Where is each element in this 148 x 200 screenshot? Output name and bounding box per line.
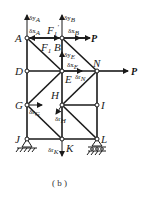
label-e: E [64, 73, 72, 85]
label-dyB: δyB [64, 14, 76, 24]
label-dxA: δxA [29, 27, 41, 37]
label-g: G [15, 99, 23, 111]
label-drK: δrK [48, 146, 59, 156]
joint-e [60, 69, 64, 73]
joint-a [25, 36, 29, 40]
joint-g [25, 103, 29, 107]
label-j: J [15, 133, 21, 145]
label-f1-prime: F1′ [46, 23, 59, 38]
label-p-right: P [131, 66, 138, 77]
label-k: K [65, 142, 74, 154]
label-dyA: δyA [29, 14, 41, 24]
figure-caption: ( b ) [52, 178, 67, 188]
label-i: I [100, 99, 106, 111]
label-d: D [14, 65, 23, 77]
label-p-top: P [91, 33, 98, 44]
label-dyE: δyE [64, 51, 76, 61]
truss-diagram: A B D E N G H I J K L P P F1 F1′ δyA δxA… [0, 0, 148, 200]
label-f1: F1 [40, 41, 51, 55]
label-drH: δrH [55, 115, 67, 125]
label-drG: δrG [29, 108, 40, 118]
label-dxE: δxE [67, 61, 79, 71]
label-n: N [92, 57, 101, 69]
joint-k [60, 137, 64, 141]
label-drN: δrN [75, 73, 86, 83]
label-b: B [54, 41, 61, 53]
joint-i [95, 103, 99, 107]
joint-b [60, 36, 64, 40]
label-l: L [100, 133, 107, 145]
joint-l [95, 137, 99, 141]
joint-d [25, 69, 29, 73]
joint-h [60, 103, 64, 107]
label-h: H [50, 89, 60, 101]
joint-j [25, 137, 29, 141]
label-a: A [14, 32, 22, 44]
joint-n [95, 69, 99, 73]
label-dxB: δxB [68, 27, 80, 37]
